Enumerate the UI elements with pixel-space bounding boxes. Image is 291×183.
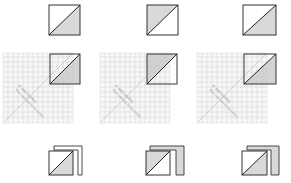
- column-3: 4" BIAS SQUARE Trim oversize for accurac…: [197, 5, 279, 175]
- hst-square-step1: [243, 5, 276, 35]
- diagram-canvas: 4" BIAS SQUARE Trim oversize for accurac…: [0, 0, 291, 183]
- bias-square-ruler: 4" BIAS SQUARE Trim oversize for accurac…: [197, 53, 276, 123]
- bias-square-ruler: 4" BIAS SQUARE Trim oversize for accurac…: [100, 53, 177, 123]
- hst-square-step1: [49, 5, 80, 35]
- bias-square-ruler: 4" BIAS SQUARE Trim oversize for accurac…: [3, 53, 80, 123]
- hst-square-step1: [147, 5, 178, 35]
- trimmed-pieces: [146, 146, 184, 175]
- trimmed-pieces: [49, 146, 82, 175]
- column-2: 4" BIAS SQUARE Trim oversize for accurac…: [100, 5, 184, 175]
- column-1: 4" BIAS SQUARE Trim oversize for accurac…: [3, 5, 82, 175]
- trimmed-pieces: [242, 146, 279, 175]
